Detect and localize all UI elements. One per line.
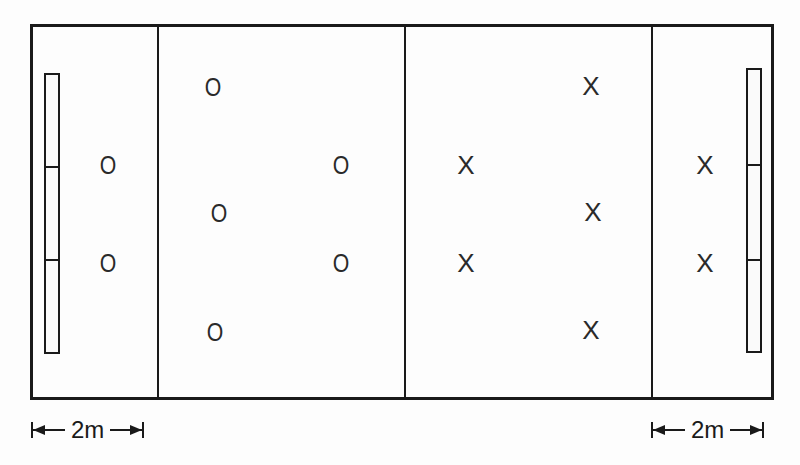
diagram-canvas: O O O O O O O X X X X X X X 2m 2m: [0, 0, 800, 465]
dimension-tick: [762, 422, 764, 438]
left-zone-line: [157, 24, 159, 400]
arrow-left-icon: [33, 429, 65, 431]
right-goal: [746, 68, 762, 353]
goal-divider: [46, 259, 58, 261]
player-o-marker: O: [211, 201, 228, 226]
player-x-marker: X: [457, 152, 474, 178]
left-goal: [44, 73, 60, 354]
dimension-tick: [142, 422, 144, 438]
player-x-marker: X: [582, 317, 599, 343]
goal-divider: [748, 164, 760, 166]
court-boundary: [30, 24, 774, 400]
left-dimension: 2m: [31, 418, 144, 442]
player-o-marker: O: [205, 75, 222, 100]
player-x-marker: X: [584, 199, 601, 225]
arrow-right-icon: [730, 429, 762, 431]
player-x-marker: X: [582, 73, 599, 99]
right-zone-line: [651, 24, 653, 400]
right-dimension: 2m: [651, 418, 764, 442]
player-o-marker: O: [100, 153, 117, 178]
player-o-marker: O: [100, 251, 117, 276]
player-x-marker: X: [696, 152, 713, 178]
player-x-marker: X: [457, 250, 474, 276]
player-o-marker: O: [207, 320, 224, 345]
player-o-marker: O: [333, 251, 350, 276]
goal-divider: [46, 166, 58, 168]
arrow-left-icon: [653, 429, 685, 431]
center-line: [404, 24, 406, 400]
player-x-marker: X: [696, 250, 713, 276]
goal-divider: [748, 259, 760, 261]
dimension-label: 2m: [685, 418, 730, 442]
dimension-label: 2m: [65, 418, 110, 442]
arrow-right-icon: [110, 429, 142, 431]
player-o-marker: O: [333, 153, 350, 178]
